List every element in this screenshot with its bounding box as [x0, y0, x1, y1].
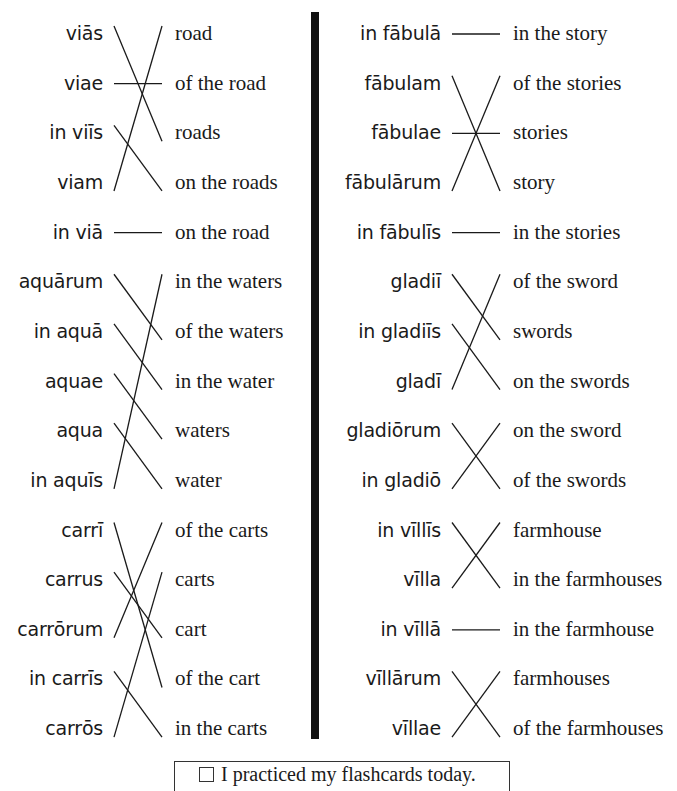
english-meaning: on the swords — [513, 369, 630, 393]
column-divider — [311, 12, 319, 739]
match-line — [452, 274, 500, 340]
latin-word: fābulārum — [345, 170, 441, 194]
english-meaning: in the water — [175, 369, 274, 393]
english-meaning: road — [175, 21, 212, 45]
latin-word: viās — [66, 21, 103, 45]
english-meaning: on the road — [175, 220, 269, 244]
match-line — [114, 274, 162, 340]
latin-word: carrōrum — [17, 617, 103, 641]
latin-word: carrōs — [45, 716, 103, 740]
match-line — [452, 671, 500, 737]
match-line — [114, 125, 162, 191]
english-meaning: on the roads — [175, 170, 278, 194]
latin-word: carrī — [61, 518, 103, 542]
english-meaning: in the farmhouse — [513, 617, 654, 641]
latin-word: gladiōrum — [346, 418, 441, 442]
match-line — [452, 76, 500, 191]
latin-word: vīllārum — [366, 666, 442, 690]
match-line — [452, 671, 500, 737]
english-meaning: of the carts — [175, 518, 268, 542]
english-meaning: of the road — [175, 71, 266, 95]
latin-word: in aquā — [34, 319, 103, 343]
latin-word: vīllae — [392, 716, 441, 740]
latin-word: in aquīs — [30, 468, 103, 492]
match-line — [452, 423, 500, 489]
latin-word: in gladiīs — [358, 319, 441, 343]
english-meaning: waters — [175, 418, 230, 442]
english-meaning: of the sword — [513, 269, 618, 293]
english-meaning: of the farmhouses — [513, 716, 663, 740]
latin-word: in vīllīs — [377, 518, 441, 542]
latin-word: aqua — [56, 418, 103, 442]
english-meaning: of the waters — [175, 319, 283, 343]
english-meaning: cart — [175, 617, 206, 641]
latin-word: fābulae — [371, 120, 441, 144]
english-meaning: water — [175, 468, 222, 492]
latin-word: in fābulā — [360, 21, 441, 45]
english-meaning: in the story — [513, 21, 608, 45]
match-line — [114, 26, 162, 141]
match-line — [452, 324, 500, 390]
latin-word: aquārum — [19, 269, 103, 293]
english-meaning: in the stories — [513, 220, 620, 244]
english-meaning: roads — [175, 120, 221, 144]
english-meaning: of the cart — [175, 666, 260, 690]
practice-label: I practiced my flashcards today. — [221, 762, 476, 786]
match-line — [452, 423, 500, 489]
match-line — [452, 76, 500, 191]
match-line — [114, 374, 162, 440]
match-line — [452, 523, 500, 589]
flashcard-practice-box: I practiced my flashcards today. — [174, 761, 510, 791]
latin-word: carrus — [45, 567, 103, 591]
english-meaning: farmhouses — [513, 666, 610, 690]
match-line — [114, 572, 162, 737]
latin-word: vīlla — [403, 567, 441, 591]
latin-word: in fābulīs — [357, 220, 441, 244]
latin-word: in carrīs — [29, 666, 103, 690]
latin-word: viae — [64, 71, 103, 95]
match-line — [114, 523, 162, 638]
english-meaning: of the stories — [513, 71, 621, 95]
english-meaning: of the swords — [513, 468, 626, 492]
match-line — [452, 523, 500, 589]
latin-word: in viīs — [49, 120, 103, 144]
latin-word: in vīllā — [381, 617, 441, 641]
match-line — [114, 572, 162, 638]
english-meaning: in the waters — [175, 269, 282, 293]
match-line — [114, 274, 162, 489]
match-line — [114, 671, 162, 737]
english-meaning: swords — [513, 319, 573, 343]
match-line — [114, 423, 162, 489]
english-meaning: story — [513, 170, 555, 194]
latin-word: gladiī — [391, 269, 441, 293]
match-line — [114, 26, 162, 191]
match-line — [114, 523, 162, 688]
english-meaning: in the carts — [175, 716, 267, 740]
practice-checkbox[interactable] — [199, 767, 214, 782]
latin-word: fābulam — [365, 71, 441, 95]
latin-word: in viā — [53, 220, 103, 244]
latin-word: aquae — [45, 369, 103, 393]
latin-word: viam — [57, 170, 103, 194]
english-meaning: farmhouse — [513, 518, 602, 542]
english-meaning: stories — [513, 120, 568, 144]
match-line — [114, 324, 162, 390]
english-meaning: on the sword — [513, 418, 622, 442]
english-meaning: in the farmhouses — [513, 567, 662, 591]
latin-word: gladī — [396, 369, 441, 393]
match-line — [452, 274, 500, 389]
latin-word: in gladiō — [361, 468, 441, 492]
english-meaning: carts — [175, 567, 215, 591]
